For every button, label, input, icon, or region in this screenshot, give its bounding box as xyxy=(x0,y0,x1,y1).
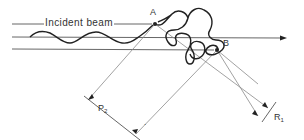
beam-line-middle xyxy=(12,37,282,38)
point-a-label: A xyxy=(150,8,156,17)
beam-line-bottom xyxy=(12,49,214,50)
distance-p2-label: P2 xyxy=(98,104,107,113)
scatter-line-b-right xyxy=(217,50,258,116)
distance-r1-label: R1 xyxy=(274,113,284,122)
incident-beam-label: Incident beam xyxy=(44,18,114,28)
distance-r-text: R xyxy=(274,112,281,122)
distance-r-subscript: 1 xyxy=(281,117,284,123)
arrowhead-icon xyxy=(280,36,287,41)
point-a-marker xyxy=(153,22,157,26)
distance-p-subscript: 2 xyxy=(104,108,107,114)
polymer-coil xyxy=(155,8,224,64)
arrowhead-icon xyxy=(262,102,268,108)
scatter-line-b xyxy=(217,50,258,84)
arrowhead-icon xyxy=(252,110,258,116)
point-b-marker xyxy=(215,48,219,52)
stray-mark: . xyxy=(144,118,146,127)
scatter-line-b-lower xyxy=(136,50,217,134)
scatter-line-a-lower xyxy=(155,24,268,108)
scatter-line-a-upper xyxy=(88,24,155,100)
arrowhead-icon xyxy=(88,94,94,100)
dimension-line-p2 xyxy=(84,96,140,140)
point-b-label: B xyxy=(223,39,229,48)
